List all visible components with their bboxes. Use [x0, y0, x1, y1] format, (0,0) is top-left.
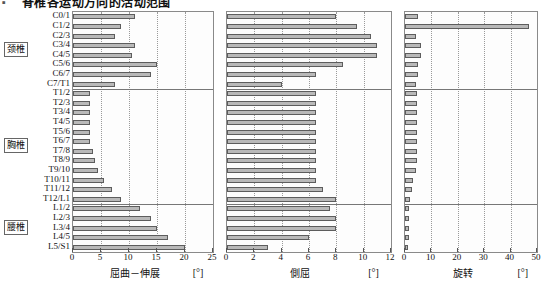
axis-unit-panel-flex: [°] [193, 267, 204, 278]
region-divider [405, 89, 537, 90]
bar-C0-1 [405, 14, 418, 19]
tick-label-0: 0 [224, 252, 229, 262]
bar-T3-4 [73, 110, 90, 115]
tick-label-8: 8 [333, 252, 338, 262]
tick-label-10: 10 [358, 252, 367, 262]
bar-T12-L1 [227, 197, 336, 202]
bar-T4-5 [73, 120, 90, 125]
axis-unit-panel-lat: [°] [368, 267, 379, 278]
bar-L2-3 [73, 216, 151, 221]
tick-label-25: 25 [208, 252, 217, 262]
tick-label-40: 40 [505, 252, 514, 262]
bar-C7-T1 [73, 82, 115, 87]
bar-C0-1 [227, 14, 336, 19]
tick-label-10: 10 [124, 252, 133, 262]
bar-T4-5 [227, 120, 316, 125]
bar-C3-4 [73, 43, 135, 48]
region-divider [227, 204, 391, 205]
region-divider [405, 204, 537, 205]
bar-C5-6 [73, 62, 157, 67]
bar-T6-7 [227, 139, 316, 144]
gridline-15 [157, 12, 158, 252]
tick-label-0: 0 [402, 252, 407, 262]
bar-C6-7 [405, 72, 418, 77]
bar-T11-12 [227, 187, 323, 192]
region-divider [73, 204, 213, 205]
region-label-lumbar: 腰椎 [4, 220, 28, 235]
region-divider [227, 89, 391, 90]
tick-label-10: 10 [426, 252, 435, 262]
bar-T5-6 [73, 130, 90, 135]
tick-label-4: 4 [278, 252, 283, 262]
bar-T10-11 [73, 178, 104, 183]
region-label-thoracic: 胸椎 [4, 138, 28, 153]
bar-L4-5 [405, 235, 409, 240]
region-label-cervical: 颈椎 [4, 42, 28, 57]
bar-C3-4 [227, 43, 377, 48]
tick-label-30: 30 [479, 252, 488, 262]
tick-label-50: 50 [532, 252, 541, 262]
tick-label-0: 0 [70, 252, 75, 262]
bar-L4-5 [73, 235, 168, 240]
bar-T10-11 [227, 178, 316, 183]
x-axis-panel-flex: 0510152025 [72, 252, 212, 266]
bar-C5-6 [405, 62, 418, 67]
bar-T6-7 [73, 139, 90, 144]
bullet-icon: ▪ [2, 0, 6, 8]
bar-T12-L1 [405, 197, 410, 202]
axis-unit-panel-rot: [°] [517, 267, 528, 278]
bar-L3-4 [73, 226, 157, 231]
tick-label-12: 12 [386, 252, 395, 262]
bar-T5-6 [405, 130, 417, 135]
bar-L5-S1 [227, 245, 268, 250]
bar-T12-L1 [73, 197, 121, 202]
bar-C2-3 [227, 34, 371, 39]
bar-L2-3 [227, 216, 336, 221]
bar-T9-10 [405, 168, 416, 173]
axis-title-panel-flex: 屈曲－伸展 [110, 268, 160, 279]
region-divider [73, 89, 213, 90]
bar-T4-5 [405, 120, 417, 125]
axis-title-panel-lat: 側屈 [290, 268, 310, 279]
bar-T3-4 [405, 110, 417, 115]
chart-panel-rotation [404, 11, 538, 253]
bar-T9-10 [227, 168, 316, 173]
bar-T2-3 [227, 101, 316, 106]
tick-label-2: 2 [251, 252, 256, 262]
bar-T10-11 [405, 178, 413, 183]
gridline-10 [431, 12, 432, 252]
gridline-30 [484, 12, 485, 252]
bar-C7-T1 [227, 82, 282, 87]
bar-T1-2 [405, 91, 417, 96]
bar-L3-4 [405, 226, 409, 231]
bar-T8-9 [405, 158, 417, 163]
bar-L4-5 [227, 235, 309, 240]
bar-T1-2 [73, 91, 90, 96]
chart-panel-lateral-bending [226, 11, 392, 253]
bar-C4-5 [73, 53, 132, 58]
bar-T11-12 [73, 187, 112, 192]
bar-C2-3 [405, 34, 416, 39]
bar-T2-3 [405, 101, 417, 106]
bar-T6-7 [405, 139, 417, 144]
bar-C1-2 [227, 24, 357, 29]
tick-label-15: 15 [152, 252, 161, 262]
gridline-40 [511, 12, 512, 252]
tick-label-20: 20 [452, 252, 461, 262]
bar-T11-12 [405, 187, 412, 192]
bar-C4-5 [227, 53, 377, 58]
bar-C2-3 [73, 34, 115, 39]
axis-title-panel-rot: 旋转 [453, 268, 473, 279]
x-axis-panel-lat: 024681012 [226, 252, 390, 266]
bar-L3-4 [227, 226, 336, 231]
chart-plot-area [0, 11, 546, 263]
gridline-20 [185, 12, 186, 252]
bar-T8-9 [227, 158, 316, 163]
bar-L1-2 [73, 206, 140, 211]
bar-T3-4 [227, 110, 316, 115]
bar-T7-8 [227, 149, 316, 154]
bar-C5-6 [227, 62, 343, 67]
bar-C1-2 [73, 24, 121, 29]
bar-T9-10 [73, 168, 98, 173]
tick-label-20: 20 [180, 252, 189, 262]
